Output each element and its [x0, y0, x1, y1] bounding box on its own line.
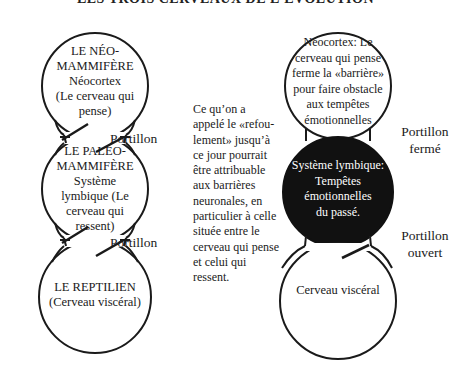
text-line: Ce qu’on a	[193, 102, 293, 117]
text-line: située entre le	[193, 224, 293, 239]
left-circle-3-text: LE REPTILIEN (Cerveau viscéral)	[37, 280, 153, 310]
left-gate-2-label: Portillon	[110, 234, 157, 251]
text-line: appelé le «refou-	[193, 117, 293, 132]
text-line: aux barrières	[193, 178, 293, 193]
text-line: fermé	[400, 140, 450, 157]
left-gate-1-label: Portillon	[110, 130, 157, 147]
text-line: cerveau qui	[47, 204, 143, 219]
text-line: pense)	[47, 104, 143, 119]
text-line: ouvert	[400, 244, 450, 261]
text-line: particulier à celle	[193, 209, 293, 224]
text-line: neuronales, en	[193, 194, 293, 209]
text-line: Tempêtes	[282, 174, 394, 190]
left-circle-2-text: LE PALÉO- MAMMIFÈRE Système lymbique (Le…	[47, 144, 143, 234]
text-line: Cerveau viscéral	[282, 283, 394, 298]
text-line: du passé.	[282, 205, 394, 221]
text-line: Néocortex: Le	[282, 35, 394, 51]
text-line: émotionnelles	[282, 189, 394, 205]
left-circle-1-text: LE NÉO- MAMMIFÈRE Néocortex (Le cerveau …	[47, 44, 143, 119]
text-line: cerveau qui pense	[282, 51, 394, 67]
right-gate-closed-label: Portillon fermé	[400, 123, 450, 157]
right-circle-3-text: Cerveau viscéral	[282, 283, 394, 298]
text-line: Néocortex	[47, 74, 143, 89]
text-line: pour faire obstacle	[282, 82, 394, 98]
text-line: MAMMIFÈRE	[47, 159, 143, 174]
text-line: ce jour pourrait	[193, 148, 293, 163]
text-line: Portillon	[400, 227, 450, 244]
text-line: ressent.	[193, 270, 293, 285]
text-line: lement» jusqu’à	[193, 133, 293, 148]
text-line: (Le cerveau qui	[47, 89, 143, 104]
text-line: être attribuable	[193, 163, 293, 178]
text-line: émotionnelles	[282, 113, 394, 129]
right-circle-1-text: Néocortex: Le cerveau qui pense ferme la…	[282, 35, 394, 128]
text-line: LE REPTILIEN	[37, 280, 153, 295]
right-circle-2-text: Système lymbique: Tempêtes émotionnelles…	[282, 158, 394, 220]
right-gate-open-label: Portillon ouvert	[400, 227, 450, 261]
explanation-text: Ce qu’on a appelé le «refou- lement» jus…	[193, 102, 293, 286]
text-line: LE NÉO-	[47, 44, 143, 59]
text-line: Portillon	[400, 123, 450, 140]
text-line: MAMMIFÈRE	[47, 59, 143, 74]
text-line: (Cerveau viscéral)	[37, 295, 153, 310]
text-line: aux tempêtes	[282, 97, 394, 113]
text-line: ressent)	[47, 219, 143, 234]
text-line: ferme la «barrière»	[282, 66, 394, 82]
right-circle-visceral	[280, 243, 396, 359]
text-line: lymbique (Le	[47, 189, 143, 204]
text-line: Système lymbique:	[282, 158, 394, 174]
text-line: Système	[47, 174, 143, 189]
text-line: et celui qui	[193, 255, 293, 270]
text-line: cerveau qui pense	[193, 240, 293, 255]
